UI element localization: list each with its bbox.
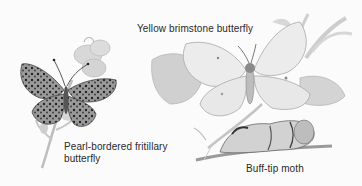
buff-tip-moth (194, 120, 332, 160)
brimstone-butterfly (183, 22, 310, 116)
label-yellow-brimstone: Yellow brimstone butterfly (137, 23, 253, 34)
illustration-plate: Yellow brimstone butterfly Pearl-bordere… (0, 0, 362, 186)
label-pearl-bordered-fritillary-line2: butterfly (64, 153, 100, 164)
label-buff-tip-moth: Buff-tip moth (246, 163, 304, 174)
label-pearl-bordered-fritillary: Pearl-bordered fritillary (64, 141, 168, 152)
